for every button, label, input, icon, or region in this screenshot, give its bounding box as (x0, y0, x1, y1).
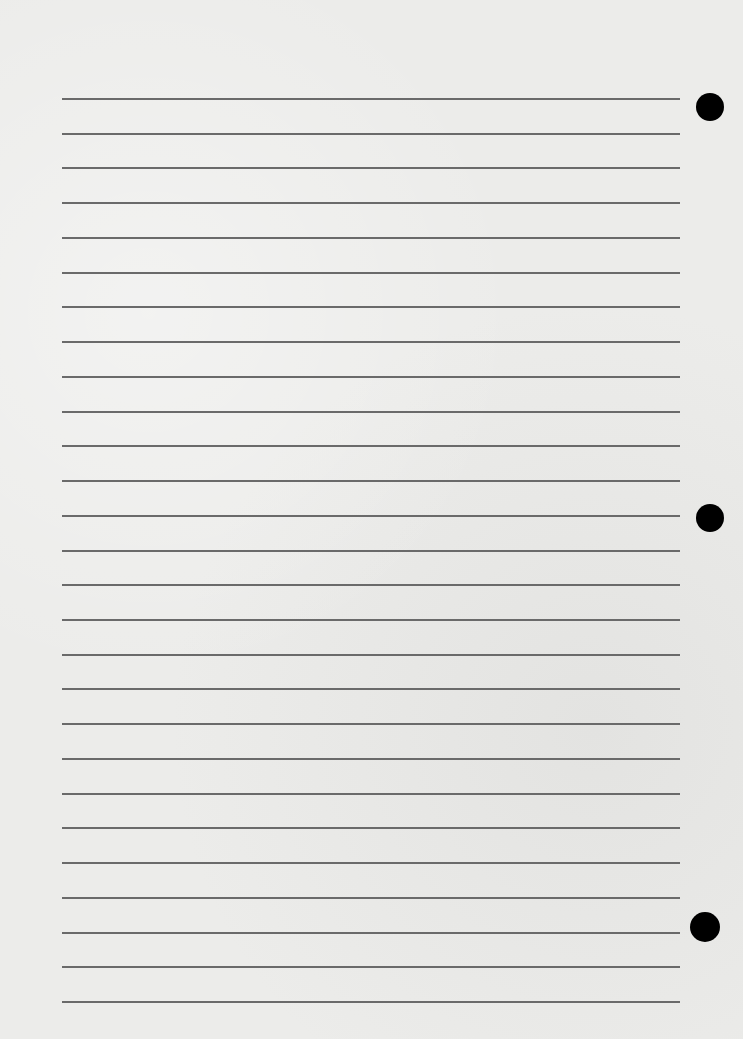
ruled-line (62, 480, 680, 482)
ruled-line (62, 550, 680, 552)
ruled-line (62, 862, 680, 864)
ruled-line (62, 827, 680, 829)
ruled-line (62, 237, 680, 239)
punch-hole (690, 912, 720, 942)
ruled-line (62, 688, 680, 690)
ruled-line (62, 966, 680, 968)
ruled-line (62, 584, 680, 586)
ruled-line (62, 932, 680, 934)
ruled-line (62, 167, 680, 169)
ruled-line (62, 376, 680, 378)
ruled-line (62, 306, 680, 308)
ruled-line (62, 272, 680, 274)
ruled-line (62, 619, 680, 621)
ruled-line (62, 445, 680, 447)
ruled-line (62, 411, 680, 413)
ruled-line (62, 723, 680, 725)
ruled-line (62, 1001, 680, 1003)
ruled-line (62, 897, 680, 899)
ruled-line (62, 98, 680, 100)
notebook-page (0, 0, 743, 1039)
ruled-line (62, 515, 680, 517)
punch-hole (696, 93, 724, 121)
ruled-line (62, 202, 680, 204)
ruled-line (62, 654, 680, 656)
punch-hole (696, 504, 724, 532)
ruled-line (62, 793, 680, 795)
ruled-line (62, 341, 680, 343)
ruled-line (62, 758, 680, 760)
ruled-line (62, 133, 680, 135)
